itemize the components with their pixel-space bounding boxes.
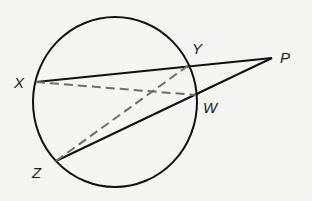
label-x: X xyxy=(13,74,25,91)
label-y: Y xyxy=(192,40,203,57)
chord-zy xyxy=(56,65,189,161)
chord-xw xyxy=(36,82,196,95)
label-z: Z xyxy=(31,164,42,181)
diagram-canvas: X Y P W Z xyxy=(0,0,312,201)
secant-zp xyxy=(56,58,272,161)
label-p: P xyxy=(280,49,290,66)
secant-xp xyxy=(36,58,272,82)
circle xyxy=(33,17,197,187)
secant-diagram: X Y P W Z xyxy=(0,0,312,201)
label-w: W xyxy=(203,99,219,116)
